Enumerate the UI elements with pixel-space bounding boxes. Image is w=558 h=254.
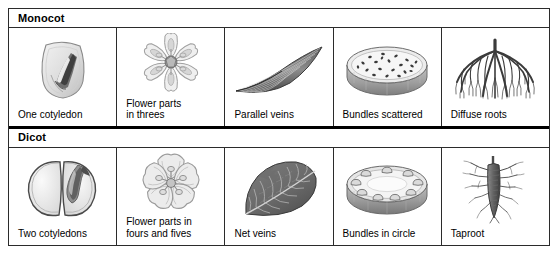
parallel-veined-leaf-icon [225, 28, 332, 109]
monocot-stem-caption: Bundles scattered [334, 109, 441, 126]
dicot-header-label: Dicot [18, 132, 46, 143]
monocot-root-caption: Diffuse roots [442, 109, 549, 126]
monocot-stem-cell: Bundles scattered [333, 28, 441, 126]
dicot-group: Dicot [9, 126, 549, 246]
dicot-seed-cell: Two cotyledons [9, 148, 116, 246]
six-petal-flower-icon [117, 28, 224, 98]
dicot-leaf-cell: Net veins [224, 148, 332, 246]
monocot-seed-cell: One cotyledon [9, 28, 116, 126]
corn-kernel-seed-icon [9, 28, 116, 109]
dicot-seed-caption: Two cotyledons [9, 228, 116, 246]
dicot-flower-cell: Flower parts in fours and fives [116, 148, 224, 246]
stem-cross-section-scattered-icon [334, 28, 441, 109]
five-petal-flower-icon [117, 148, 224, 217]
monocot-flower-caption: Flower parts in threes [117, 98, 224, 126]
monocot-seed-caption: One cotyledon [9, 109, 116, 126]
monocot-flower-cell: Flower parts in threes [116, 28, 224, 126]
dicot-stem-caption: Bundles in circle [334, 228, 441, 246]
dicot-flower-caption: Flower parts in fours and fives [117, 216, 224, 245]
dicot-stem-cell: Bundles in circle [333, 148, 441, 246]
net-veined-leaf-icon [225, 148, 332, 228]
monocot-group: Monocot [9, 9, 549, 126]
monocot-leaf-caption: Parallel veins [225, 109, 332, 126]
dicot-root-caption: Taproot [442, 228, 549, 246]
monocot-cell-row: One cotyledon [9, 28, 549, 126]
monocot-leaf-cell: Parallel veins [224, 28, 332, 126]
fibrous-root-icon [442, 28, 549, 109]
monocot-header-label: Monocot [18, 13, 65, 24]
monocot-header: Monocot [9, 9, 549, 28]
bean-seed-split-icon [9, 148, 116, 228]
taproot-icon [442, 148, 549, 228]
dicot-leaf-caption: Net veins [225, 228, 332, 246]
monocot-dicot-comparison-chart: Monocot [8, 8, 550, 246]
monocot-root-cell: Diffuse roots [441, 28, 549, 126]
dicot-root-cell: Taproot [441, 148, 549, 246]
dicot-cell-row: Two cotyledons [9, 148, 549, 246]
stem-cross-section-ring-icon [334, 148, 441, 228]
dicot-header: Dicot [9, 129, 549, 148]
